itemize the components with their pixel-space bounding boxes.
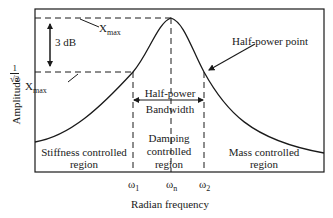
omega2-tick-label: ω2 [199, 178, 210, 192]
half-power-amplitude-leader [68, 74, 78, 82]
half-power-xmax-label: Xmax [25, 80, 47, 94]
damping-region-label-line3: region [135, 158, 203, 170]
xmax-leader [80, 19, 99, 27]
half-power-point-arrow [209, 44, 255, 70]
stiffness-region-label-line2: region [36, 158, 132, 170]
half-power-point-label: Half-power point [232, 35, 308, 47]
mass-region-label-line1: Mass controlled [205, 146, 323, 158]
bandwidth-label-line1: Half-power [138, 87, 202, 99]
xmax-label: Xmax [99, 22, 121, 36]
stiffness-region-label-line1: Stiffness controlled [36, 146, 132, 158]
x-axis-label: Radian frequency [120, 198, 220, 210]
omegan-tick-label: ωn [166, 178, 177, 192]
damping-region-label-line1: Damping [135, 132, 203, 144]
bandwidth-label-line2: Bandwidth [138, 103, 202, 115]
three-db-label: 3 dB [55, 36, 76, 48]
half-power-amplitude-fraction: 1 √2 [10, 63, 19, 84]
damping-region-label-line2: controlled [135, 145, 203, 157]
omega1-tick-label: ω1 [128, 178, 139, 192]
mass-region-label-line2: region [205, 158, 323, 170]
